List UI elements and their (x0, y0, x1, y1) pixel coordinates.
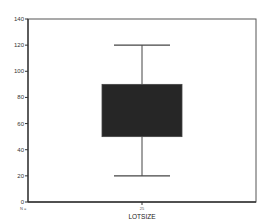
n-label: N = (20, 206, 27, 211)
boxplot-chart: 020406080100120140 N = 25 LOTSIZE (0, 0, 271, 224)
y-tick-label: 120 (14, 42, 25, 48)
y-tick-label: 40 (17, 147, 24, 153)
n-value: 25 (140, 206, 145, 211)
box-series (102, 45, 182, 176)
y-axis-ticks: 020406080100120140 (14, 16, 28, 205)
iqr-box (102, 84, 182, 136)
y-tick-label: 60 (17, 121, 24, 127)
y-tick-label: 0 (21, 199, 25, 205)
y-tick-label: 140 (14, 16, 25, 22)
y-tick-label: 20 (17, 173, 24, 179)
y-tick-label: 80 (17, 94, 24, 100)
x-axis-title: LOTSIZE (128, 213, 156, 220)
y-tick-label: 100 (14, 68, 25, 74)
